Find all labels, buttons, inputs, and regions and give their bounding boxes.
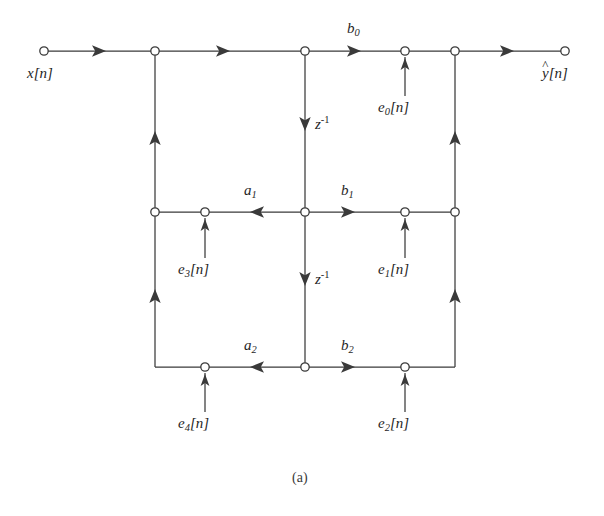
label-e2-base: e bbox=[378, 415, 385, 431]
label-noise-e3: e3[n] bbox=[178, 262, 209, 279]
node-mid-center bbox=[301, 208, 309, 216]
label-a2-sub: 2 bbox=[252, 344, 257, 355]
node-mid-e3 bbox=[201, 208, 209, 216]
label-output-signal: ^y[n] bbox=[542, 66, 568, 81]
label-e3-base: e bbox=[178, 261, 185, 277]
node-top-center bbox=[301, 47, 309, 55]
node-bot-center bbox=[301, 363, 309, 371]
node-top-left bbox=[151, 47, 159, 55]
label-a2-base: a bbox=[244, 337, 252, 353]
label-e4-base: e bbox=[178, 415, 185, 431]
label-b0-sub: 0 bbox=[355, 27, 360, 38]
node-bot-e2 bbox=[401, 363, 409, 371]
node-mid-right bbox=[451, 208, 459, 216]
label-b2-sub: 2 bbox=[349, 344, 354, 355]
label-e0-bracket: [n] bbox=[390, 99, 409, 115]
node-top-e0 bbox=[401, 47, 409, 55]
label-e4-bracket: [n] bbox=[190, 415, 209, 431]
label-e0-base: e bbox=[378, 99, 385, 115]
label-e2-bracket: [n] bbox=[390, 415, 409, 431]
label-coefficient-b2: b2 bbox=[341, 338, 354, 355]
label-coefficient-a2: a2 bbox=[244, 338, 257, 355]
node-mid-e1 bbox=[401, 208, 409, 216]
label-delay-element-1: z-1 bbox=[315, 115, 330, 132]
label-noise-e1: e1[n] bbox=[378, 262, 409, 279]
label-delay-element-2: z-1 bbox=[315, 270, 330, 287]
label-e1-bracket: [n] bbox=[390, 261, 409, 277]
label-output-hat: ^ bbox=[542, 58, 548, 71]
figure-signal-flow-graph: x[n] ^y[n] b0 b1 b2 a1 a2 z-1 z-1 e0[n] … bbox=[0, 0, 604, 516]
label-a1-sub: 1 bbox=[252, 189, 257, 200]
label-input-bracket: [n] bbox=[34, 65, 53, 81]
label-input-base: x bbox=[27, 65, 34, 81]
label-e1-base: e bbox=[378, 261, 385, 277]
label-noise-e0: e0[n] bbox=[378, 100, 409, 117]
label-delay1-sup: -1 bbox=[321, 114, 330, 125]
label-b1-sub: 1 bbox=[349, 189, 354, 200]
label-e3-bracket: [n] bbox=[190, 261, 209, 277]
node-input bbox=[40, 47, 48, 55]
label-a1-base: a bbox=[244, 182, 252, 198]
label-output-bracket: [n] bbox=[549, 65, 568, 81]
label-delay2-sup: -1 bbox=[321, 269, 330, 280]
label-noise-e4: e4[n] bbox=[178, 416, 209, 433]
label-b2-base: b bbox=[341, 337, 349, 353]
node-mid-left bbox=[151, 208, 159, 216]
node-top-right bbox=[451, 47, 459, 55]
label-coefficient-b1: b1 bbox=[341, 183, 354, 200]
node-bot-e4 bbox=[201, 363, 209, 371]
signal-flow-graph-canvas bbox=[0, 0, 604, 516]
label-input-signal: x[n] bbox=[27, 66, 53, 81]
node-output bbox=[561, 47, 569, 55]
label-coefficient-b0: b0 bbox=[347, 21, 360, 38]
label-coefficient-a1: a1 bbox=[244, 183, 257, 200]
label-noise-e2: e2[n] bbox=[378, 416, 409, 433]
label-b0-base: b bbox=[347, 20, 355, 36]
label-b1-base: b bbox=[341, 182, 349, 198]
figure-caption: (a) bbox=[292, 470, 308, 486]
